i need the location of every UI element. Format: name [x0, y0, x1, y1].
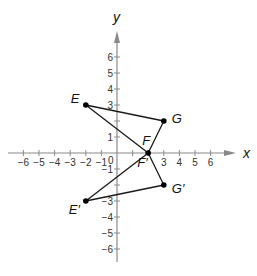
y-tick-label: −5 [102, 228, 114, 239]
x-tick-label: −3 [64, 157, 76, 168]
point-label-e: E [71, 91, 80, 106]
x-tick-label: −4 [49, 157, 61, 168]
x-tick-label: 3 [161, 157, 167, 168]
x-tick-label: 6 [208, 157, 214, 168]
x-axis-label: x [242, 145, 251, 161]
y-tick-label: −4 [102, 212, 114, 223]
y-tick-label: 4 [107, 84, 113, 95]
x-tick-label: −5 [33, 157, 45, 168]
point-e [83, 102, 89, 108]
point-g-prime [161, 182, 167, 188]
y-tick-label: −6 [102, 244, 114, 255]
y-axis-label: y [112, 9, 121, 25]
x-axis-arrow-icon [224, 150, 236, 156]
y-tick-label: 6 [107, 52, 113, 63]
coordinate-plane: −6−5−4−3−2−1345665431−1−3−4−5−6 EFGE′F′G… [0, 0, 257, 276]
axes [8, 31, 236, 262]
x-tick-label: −6 [18, 157, 30, 168]
point-g [161, 118, 167, 124]
y-tick-label: 1 [107, 132, 113, 143]
triangle-efg [86, 105, 164, 153]
point-label-e-prime: E′ [69, 202, 81, 217]
point-e-prime [83, 198, 89, 204]
x-tick-label: −2 [80, 157, 92, 168]
point-label-f-prime: F′ [137, 155, 148, 170]
point-label-g-prime: G′ [172, 181, 185, 196]
y-axis-arrow-icon [114, 31, 120, 43]
y-tick-label: 3 [107, 100, 113, 111]
origin-label: 0 [108, 155, 114, 166]
x-tick-label: 5 [192, 157, 198, 168]
x-tick-label: 4 [177, 157, 183, 168]
point-label-f: F [142, 133, 151, 148]
y-tick-label: 5 [107, 68, 113, 79]
point-label-g: G [172, 111, 182, 126]
